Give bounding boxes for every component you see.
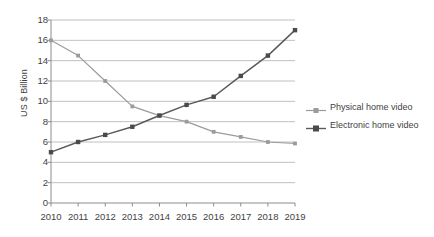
legend-label-electronic-home-video: Electronic home video: [330, 120, 419, 131]
data-point-electronic-home-video: [184, 103, 188, 107]
legend-item-physical-home-video: Physical home video: [306, 100, 434, 115]
data-point-electronic-home-video: [49, 150, 53, 154]
data-point-electronic-home-video: [211, 95, 215, 99]
data-point-physical-home-video: [49, 38, 53, 42]
data-point-physical-home-video: [212, 130, 216, 134]
legend-marker-physical-home-video: [306, 102, 326, 113]
chart-legend: Physical home video Electronic home vide…: [306, 100, 434, 136]
series-line-electronic-home-video: [51, 30, 295, 152]
data-point-electronic-home-video: [293, 28, 297, 32]
data-point-electronic-home-video: [266, 53, 270, 57]
data-point-electronic-home-video: [157, 113, 161, 117]
legend-label-physical-home-video: Physical home video: [330, 102, 413, 113]
data-point-electronic-home-video: [130, 125, 134, 129]
series-line-physical-home-video: [51, 40, 295, 143]
data-point-physical-home-video: [185, 120, 189, 124]
data-point-physical-home-video: [293, 142, 297, 146]
legend-marker-electronic-home-video: [306, 120, 326, 131]
data-point-physical-home-video: [76, 54, 80, 58]
data-point-electronic-home-video: [103, 133, 107, 137]
chart-container: US $ Billion 024681012141618 20102011201…: [0, 0, 434, 237]
data-point-electronic-home-video: [239, 74, 243, 78]
legend-item-electronic-home-video: Electronic home video: [306, 118, 434, 133]
data-point-electronic-home-video: [76, 140, 80, 144]
data-point-physical-home-video: [239, 135, 243, 139]
data-point-physical-home-video: [266, 140, 270, 144]
data-point-physical-home-video: [103, 79, 107, 83]
data-point-physical-home-video: [130, 105, 134, 109]
